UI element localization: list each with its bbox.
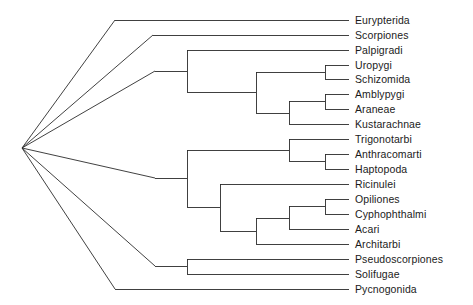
tip-label-kustarachnae: Kustarachnae (355, 119, 421, 130)
tip-label-opiliones: Opiliones (355, 194, 400, 205)
tip-label-trigonotarbi: Trigonotarbi (355, 134, 412, 145)
tip-label-architarbi: Architarbi (355, 239, 400, 250)
tip-label-amblypygi: Amblypygi (355, 89, 404, 100)
tip-label-uropygi: Uropygi (355, 60, 392, 71)
root-branch-eurypterida (22, 20, 115, 148)
tip-label-haptopoda: Haptopoda (355, 164, 407, 175)
tip-label-pseudoscorpiones: Pseudoscorpiones (355, 254, 443, 265)
tip-label-anthracomarti: Anthracomarti (355, 149, 422, 160)
tip-label-eurypterida: Eurypterida (355, 15, 410, 26)
tip-label-ricinulei: Ricinulei (355, 179, 396, 190)
cladogram-figure: EurypteridaScorpionesPalpigradiUropygiSc… (0, 0, 473, 305)
tip-label-scorpiones: Scorpiones (355, 30, 409, 41)
tip-label-pycnogonida: Pycnogonida (355, 284, 417, 295)
tip-label-araneae: Araneae (355, 104, 395, 115)
tip-label-solifugae: Solifugae (355, 269, 400, 280)
tip-label-cyphophthalmi: Cyphophthalmi (355, 209, 426, 220)
tip-label-acari: Acari (355, 224, 379, 235)
tip-label-schizomida: Schizomida (355, 74, 410, 85)
tip-label-palpigradi: Palpigradi (355, 45, 403, 56)
root-branch-lower-clade (22, 148, 155, 178)
root-branch-palpigradi (22, 71, 155, 148)
root-branch-scorpiones (22, 35, 153, 148)
